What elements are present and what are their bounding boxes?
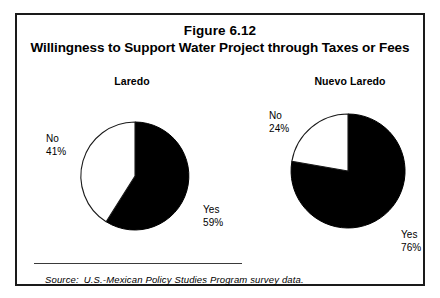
figure-title: Willingness to Support Water Project thr…: [17, 39, 423, 57]
pie-label-laredo-yes: Yes 59%: [203, 204, 223, 229]
pie-chart-nuevo-laredo: [277, 100, 419, 242]
source-label: Source:: [45, 274, 79, 285]
source-note: Source:U.S.-Mexican Policy Studies Progr…: [45, 274, 304, 285]
pie-label-laredo-no-name: No: [46, 133, 59, 144]
pie-nuevo-laredo-svg: [277, 100, 419, 242]
pie-laredo-svg: [67, 108, 203, 244]
source-text: U.S.-Mexican Policy Studies Program surv…: [84, 274, 304, 285]
figure-frame: Figure 6.12 Willingness to Support Water…: [15, 13, 425, 286]
pie-label-nuevo-laredo-no: No 24%: [269, 110, 289, 135]
pie-label-laredo-yes-pct: 59%: [203, 217, 223, 230]
pie-label-nuevo-laredo-yes-pct: 76%: [401, 242, 421, 255]
pie-label-nuevo-laredo-no-pct: 24%: [269, 123, 289, 136]
pie-label-nuevo-laredo-yes-name: Yes: [401, 229, 418, 240]
pie-label-nuevo-laredo-no-name: No: [269, 110, 282, 121]
pie-label-laredo-no-pct: 41%: [46, 146, 66, 159]
pie-slice-nuevo-laredo-no: [292, 114, 348, 171]
source-divider: [34, 263, 242, 264]
panel-heading-laredo: Laredo: [77, 75, 187, 87]
figure-number: Figure 6.12: [17, 22, 423, 39]
pie-chart-laredo: [67, 108, 203, 244]
pie-label-laredo-no: No 41%: [46, 133, 66, 158]
panel-heading-nuevo-laredo: Nuevo Laredo: [285, 75, 415, 87]
pie-label-nuevo-laredo-yes: Yes 76%: [401, 229, 421, 254]
figure-title-block: Figure 6.12 Willingness to Support Water…: [17, 22, 423, 57]
pie-label-laredo-yes-name: Yes: [203, 204, 220, 215]
